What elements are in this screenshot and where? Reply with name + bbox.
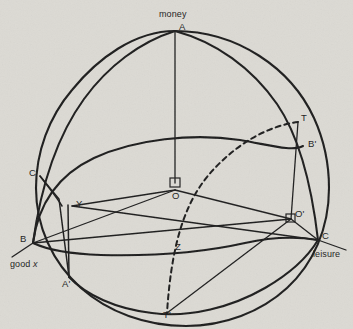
point-label-Y: Y	[76, 199, 82, 209]
axis-good-x-extension	[12, 243, 33, 257]
segment-y-to-o	[72, 190, 175, 206]
point-label-B: B	[20, 234, 26, 244]
sphere-outline	[36, 31, 329, 326]
meridian-arc-a-b	[33, 31, 175, 243]
axis-b-to-o	[33, 190, 175, 243]
dashed-arc-t-z-tprime	[167, 122, 298, 313]
chord-c-prime-a-prime	[40, 176, 69, 277]
upper-band-arc	[33, 137, 303, 243]
axis-label-good-x: good x	[10, 260, 38, 269]
good-x-italic: x	[33, 259, 38, 269]
point-label-C: C	[322, 231, 329, 241]
point-label-O: O	[172, 191, 180, 201]
good-x-prefix: good	[10, 259, 33, 269]
point-label-Z: Z	[175, 242, 181, 252]
geometry-figure: money good x leisure A B C O O' A' B' C'…	[0, 0, 353, 329]
point-label-T: T	[301, 113, 307, 123]
point-label-C-prime: C'	[29, 168, 38, 178]
axis-o-to-o-prime	[175, 190, 291, 219]
point-label-O-prime: O'	[295, 209, 304, 219]
axis-label-leisure: leisure	[313, 250, 340, 259]
segment-c-to-y	[72, 206, 318, 240]
point-label-B-prime: B'	[308, 139, 316, 149]
figure-svg	[0, 0, 353, 329]
point-label-T-prime: T'	[163, 310, 171, 320]
point-label-A-prime: A'	[62, 279, 70, 289]
point-label-A: A	[179, 22, 185, 32]
chord-a-prime-vertical	[68, 205, 69, 277]
axis-label-money: money	[159, 10, 187, 19]
